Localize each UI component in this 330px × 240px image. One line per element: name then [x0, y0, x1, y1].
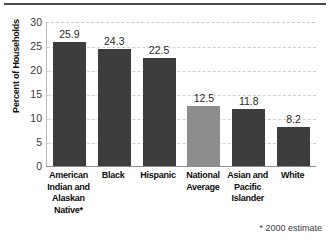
bar: 8.2 — [277, 127, 310, 166]
x-axis-category-label: White — [265, 170, 321, 182]
y-axis-tick-label: 0 — [16, 161, 42, 171]
bar: 22.5 — [143, 58, 176, 166]
category-label-line: Indian and — [40, 182, 96, 194]
footnote: * 2000 estimate — [259, 223, 322, 233]
y-axis-tick-labels: 302520151050 — [16, 0, 42, 240]
gridline — [47, 95, 316, 96]
category-label-line: Alaskan — [40, 193, 96, 205]
bar: 12.5 — [187, 106, 220, 166]
gridline — [47, 143, 316, 144]
bar: 25.9 — [53, 42, 86, 166]
plot-area: 25.924.322.512.511.88.2 — [46, 22, 315, 166]
bar-value-label: 8.2 — [286, 114, 301, 125]
y-axis-tick-label: 25 — [16, 41, 42, 51]
bar-value-label: 11.8 — [239, 96, 259, 107]
bar-chart-figure: Percent of Households 302520151050 25.92… — [0, 0, 330, 240]
category-label-line: Pacific — [220, 182, 276, 194]
y-axis-tick-label: 15 — [16, 89, 42, 99]
y-axis-tick-label: 30 — [16, 17, 42, 27]
bar: 11.8 — [232, 109, 265, 166]
y-axis-tick-label: 5 — [16, 137, 42, 147]
x-axis-line — [46, 166, 316, 167]
bar-value-label: 24.3 — [104, 36, 124, 47]
gridline — [47, 119, 316, 120]
x-axis-category-labels: AmericanIndian andAlaskanNative*BlackHis… — [46, 170, 315, 226]
top-divider-rule — [4, 3, 326, 5]
gridline — [47, 47, 316, 48]
bar-value-label: 22.5 — [149, 45, 169, 56]
bar-value-label: 25.9 — [59, 29, 79, 40]
category-label-line: White — [265, 170, 321, 182]
bar: 24.3 — [98, 49, 131, 166]
bar-value-label: 12.5 — [194, 93, 214, 104]
category-label-line: Native* — [40, 205, 96, 217]
gridline — [47, 71, 316, 72]
y-axis-tick-label: 10 — [16, 113, 42, 123]
category-label-line: Islander — [220, 193, 276, 205]
y-axis-tick-label: 20 — [16, 65, 42, 75]
